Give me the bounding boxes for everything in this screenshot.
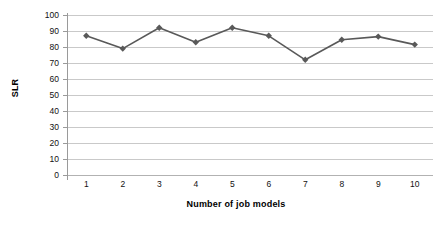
x-axis-tick-label: 8 [339,180,344,189]
y-axis-tick-label: 10 [50,155,59,164]
x-axis-tick-labels: 12345678910 [68,180,433,196]
y-axis-tick-label: 80 [50,43,59,52]
data-point-marker [229,25,235,31]
y-axis-tick-label: 70 [50,59,59,68]
line-chart: SLR 1009080706050403020100 12345678910 N… [0,0,433,225]
series-line-svg [68,15,433,175]
x-axis-tick-label: 6 [266,180,271,189]
y-axis-title: SLR [0,0,30,175]
data-point-marker [339,37,345,43]
x-axis-title: Number of job models [68,199,404,209]
y-axis-title-label: SLR [10,78,20,97]
series-line [86,28,415,60]
x-axis-tick-label: 3 [157,180,162,189]
y-axis-tick-label: 0 [54,171,59,180]
y-axis-tick-label: 40 [50,107,59,116]
y-axis-tick-label: 20 [50,139,59,148]
data-point-marker [193,39,199,45]
y-axis-tick-label: 50 [50,91,59,100]
plot-area [68,15,433,175]
x-axis-tick-label: 2 [120,180,125,189]
data-point-marker [120,45,126,51]
y-axis-tick-label: 30 [50,123,59,132]
data-point-marker [375,33,381,39]
x-axis-tick-label: 5 [230,180,235,189]
x-axis-tick-label: 7 [303,180,308,189]
data-point-marker [412,41,418,47]
y-axis-tick-label: 60 [50,75,59,84]
x-axis-tick-label: 1 [84,180,89,189]
data-point-marker [83,33,89,39]
data-point-marker [156,25,162,31]
x-axis-tick-label: 9 [376,180,381,189]
y-axis-tick-label: 90 [50,27,59,36]
y-axis-tick-labels: 1009080706050403020100 [28,0,64,190]
x-axis-tick-label: 4 [193,180,198,189]
x-axis-tick-label: 10 [410,180,419,189]
y-axis-tick-label: 100 [45,11,59,20]
gridline [68,175,433,176]
